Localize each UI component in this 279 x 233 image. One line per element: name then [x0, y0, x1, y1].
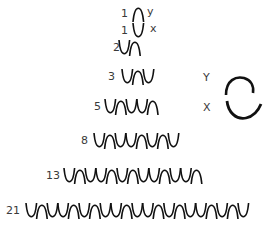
cup-segment	[138, 168, 149, 182]
arch-segment	[75, 170, 86, 184]
cup-segment	[26, 203, 37, 217]
row-count-label: 5	[94, 101, 101, 112]
cup-segment	[58, 203, 69, 217]
cup-segment	[122, 69, 133, 83]
row-count-label: 1	[121, 8, 128, 19]
wave-row-5	[105, 99, 158, 115]
row-count-label: 8	[81, 135, 88, 146]
row-count-label: 21	[6, 205, 20, 216]
arch-segment	[206, 205, 217, 219]
cup-segment	[100, 203, 111, 217]
legend-key-y: Y	[203, 72, 210, 83]
cup-segment	[181, 168, 192, 182]
wave-row-1	[133, 8, 144, 22]
arch-segment	[153, 205, 164, 219]
cup-segment	[164, 203, 175, 217]
cup-segment	[96, 168, 107, 182]
cup-segment	[137, 99, 148, 113]
arch-segment	[159, 170, 170, 184]
cup-segment	[217, 203, 228, 217]
cup-segment	[126, 99, 137, 113]
cup-segment	[85, 168, 96, 182]
cup-segment	[143, 203, 154, 217]
arch-segment	[191, 170, 202, 184]
arch-segment	[37, 205, 48, 219]
cup-segment	[170, 168, 181, 182]
cup-segment	[168, 133, 179, 147]
cup-segment	[196, 203, 207, 217]
arch-segment	[68, 205, 79, 219]
cup-segment	[119, 40, 130, 54]
cup-segment	[117, 168, 128, 182]
wave-row-1	[133, 23, 144, 37]
row-count-label: 2	[113, 42, 120, 53]
row-count-label: 3	[108, 71, 115, 82]
row-symbol-label: x	[150, 23, 157, 34]
cup-segment	[147, 133, 158, 147]
wave-row-21	[26, 203, 249, 219]
cup-segment	[111, 203, 122, 217]
cup-segment	[238, 203, 249, 217]
cup-segment	[94, 133, 105, 147]
arch-segment	[133, 8, 144, 22]
cup-segment	[47, 203, 58, 217]
cup-segment	[105, 99, 116, 113]
cup-segment	[143, 69, 154, 83]
cup-glyph	[227, 101, 261, 118]
arch-segment	[133, 71, 144, 85]
row-count-label: 1	[121, 25, 128, 36]
arch-segment	[128, 170, 139, 184]
wave-row-3	[122, 69, 154, 85]
arch-segment	[121, 205, 132, 219]
cup-segment	[126, 133, 137, 147]
arch-segment	[158, 135, 169, 149]
arch-segment	[147, 101, 158, 115]
arch-segment	[106, 170, 117, 184]
cup-segment	[79, 203, 90, 217]
legend-key-x: X	[203, 102, 211, 113]
arch-glyph	[226, 78, 253, 95]
cup-segment	[64, 168, 75, 182]
arch-segment	[174, 205, 185, 219]
wave-row-13	[64, 168, 202, 184]
arch-segment	[90, 205, 101, 219]
wave-row-8	[94, 133, 179, 149]
row-symbol-label: y	[147, 6, 154, 17]
cup-segment	[132, 203, 143, 217]
cup-segment	[149, 168, 160, 182]
wave-rows	[0, 0, 279, 233]
row-count-label: 13	[46, 170, 60, 181]
fibonacci-wave-diagram: 1y1x23581321 YX	[0, 0, 279, 233]
arch-segment	[136, 135, 147, 149]
wave-row-2	[119, 40, 140, 56]
arch-segment	[105, 135, 116, 149]
arch-segment	[130, 42, 141, 56]
legend-glyph-icon	[226, 78, 261, 119]
cup-segment	[115, 133, 126, 147]
cup-segment	[185, 203, 196, 217]
arch-segment	[116, 101, 127, 115]
cup-segment	[133, 23, 144, 37]
arch-segment	[227, 205, 238, 219]
